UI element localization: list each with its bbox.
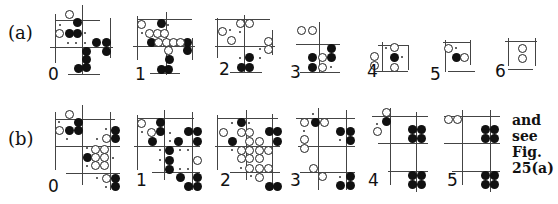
hollow-stone-icon [318,63,327,72]
hollow-stone-icon [518,54,527,63]
filled-stone-icon [382,117,391,126]
filled-stone-icon [481,180,490,189]
small-dot-icon [339,176,341,178]
grid-line [152,172,200,173]
hollow-stone-icon [55,29,64,38]
hollow-stone-icon [164,46,173,55]
small-dot-icon [455,47,457,49]
grid-line [443,42,470,43]
filled-stone-icon [111,182,120,191]
filled-stone-icon [481,125,490,134]
filled-stone-icon [148,137,157,146]
grid-line [55,119,115,120]
grid-line [217,118,278,119]
hollow-stone-icon [390,43,399,52]
filled-stone-icon [156,127,165,136]
hollow-stone-icon [102,134,111,143]
filled-stone-icon [490,134,499,143]
hollow-stone-icon [255,164,264,173]
hollow-stone-icon [245,164,254,173]
small-dot-icon [401,56,403,58]
small-dot-icon [67,42,69,44]
row-label-a: (a) [8,22,33,43]
small-dot-icon [376,123,378,125]
small-dot-icon [231,149,233,151]
small-dot-icon [159,159,161,161]
hollow-stone-icon [308,26,317,35]
small-dot-icon [385,47,387,49]
hollow-stone-icon [255,137,264,146]
filled-stone-icon [390,53,399,62]
filled-stone-icon [346,127,355,136]
hollow-stone-icon [137,20,146,29]
small-dot-icon [84,32,86,34]
grid-line [230,72,262,73]
filled-stone-icon [245,63,254,72]
panel-number-label: 0 [48,178,59,195]
panel-number-label: 5 [430,66,441,83]
hollow-stone-icon [300,135,309,144]
filled-stone-icon [308,53,317,62]
grid-line [448,71,475,72]
small-dot-icon [312,113,314,115]
hollow-stone-icon [309,164,318,173]
filled-stone-icon [346,181,355,190]
hollow-stone-icon [218,27,227,36]
grid-line [137,118,194,119]
panel-number-label: 1 [135,66,146,83]
hollow-stone-icon [55,126,64,135]
filled-stone-icon [327,53,336,62]
filled-stone-icon [308,63,317,72]
hollow-stone-icon [227,36,236,45]
grid-line [378,143,428,144]
note-line-4: 25(a) [512,160,554,176]
small-dot-icon [59,24,61,26]
filled-stone-icon [481,134,490,143]
hollow-stone-icon [320,118,329,127]
filled-stone-icon [417,171,426,180]
hollow-stone-icon [65,110,74,119]
grid-line [416,112,417,192]
panel-number-label: 6 [495,63,506,80]
small-dot-icon [159,149,161,151]
small-dot-icon [259,57,261,59]
grid-line [55,14,56,63]
grid-line [444,143,500,144]
hollow-stone-icon [245,137,254,146]
grid-line [508,69,533,70]
small-dot-icon [248,122,250,124]
filled-stone-icon [346,172,355,181]
filled-stone-icon [193,182,202,191]
panel-number-label: 2 [219,61,230,78]
filled-stone-icon [92,38,101,47]
figure-canvas: (a) (b) and see Fig. 25(a) 0123456012345 [0,0,558,204]
filled-stone-icon [490,180,499,189]
hollow-stone-icon [444,44,453,53]
hollow-stone-icon [91,161,100,170]
small-dot-icon [339,139,341,141]
small-dot-icon [167,24,169,26]
filled-stone-icon [102,38,111,47]
small-dot-icon [86,165,88,167]
filled-stone-icon [165,146,174,155]
filled-stone-icon [273,127,282,136]
hollow-stone-icon [444,115,453,124]
hollow-stone-icon [255,173,264,182]
filled-stone-icon [184,182,193,191]
filled-stone-icon [408,180,417,189]
hollow-stone-icon [219,128,228,137]
small-dot-icon [169,132,171,134]
hollow-stone-icon [245,128,254,137]
filled-stone-icon [111,134,120,143]
hollow-stone-icon [300,118,309,127]
note-line-1: and [512,112,554,128]
filled-stone-icon [74,126,83,135]
filled-stone-icon [74,64,83,73]
small-dot-icon [105,128,107,130]
panel-number-label: 3 [290,172,301,189]
grid-line [217,115,218,170]
see-figure-note: and see Fig. 25(a) [512,112,554,176]
small-dot-icon [75,42,77,44]
grid-line [408,45,409,70]
hollow-stone-icon [147,128,156,137]
